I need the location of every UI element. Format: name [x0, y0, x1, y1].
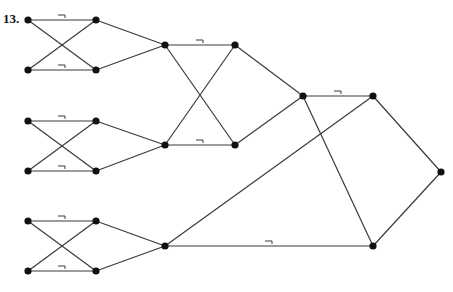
edge-c3-f1	[165, 96, 373, 246]
edge-b2-c1	[96, 45, 165, 70]
negation-mark-icon	[58, 216, 65, 219]
edge-f2-g1	[373, 172, 441, 246]
negation-mark-icon	[265, 241, 272, 244]
edge-b1-c1	[96, 20, 165, 45]
node-d1	[231, 41, 238, 48]
node-f1	[369, 92, 376, 99]
node-b6	[92, 267, 99, 274]
node-a4	[24, 167, 31, 174]
negation-mark-icon	[58, 166, 65, 169]
edge-b5-c3	[96, 221, 165, 246]
edge-b3-c2	[96, 121, 165, 145]
edge-b4-c2	[96, 145, 165, 171]
edge-f1-g1	[373, 96, 441, 172]
node-a2	[24, 66, 31, 73]
negation-mark-icon	[58, 65, 65, 68]
edge-d2-e1	[235, 96, 303, 145]
node-c2	[161, 141, 168, 148]
node-a5	[24, 217, 31, 224]
node-b5	[92, 217, 99, 224]
edge-e1-f2	[303, 96, 373, 246]
negation-marks-layer	[58, 15, 341, 269]
negation-mark-icon	[58, 266, 65, 269]
node-e1	[299, 92, 306, 99]
negation-mark-icon	[58, 116, 65, 119]
node-b1	[92, 16, 99, 23]
node-a1	[24, 16, 31, 23]
node-c1	[161, 41, 168, 48]
logic-network-diagram	[0, 0, 453, 292]
negation-mark-icon	[58, 15, 65, 18]
node-a3	[24, 117, 31, 124]
node-d2	[231, 141, 238, 148]
node-b3	[92, 117, 99, 124]
node-b4	[92, 167, 99, 174]
edge-b6-c3	[96, 246, 165, 271]
edge-d1-e1	[235, 45, 303, 96]
negation-mark-icon	[196, 40, 203, 43]
node-b2	[92, 66, 99, 73]
node-c3	[161, 242, 168, 249]
negation-mark-icon	[196, 140, 203, 143]
node-g1	[437, 168, 444, 175]
node-a6	[24, 267, 31, 274]
negation-mark-icon	[334, 91, 341, 94]
node-f2	[369, 242, 376, 249]
